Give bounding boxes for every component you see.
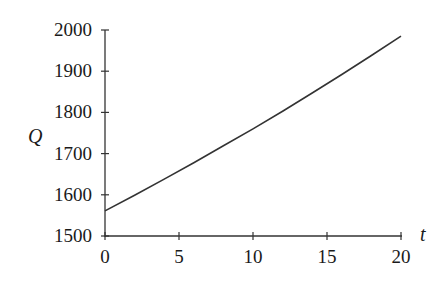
x-axis-label: t — [420, 223, 426, 245]
x-ticks: 05101520 — [100, 232, 410, 267]
y-tick-label: 1800 — [54, 101, 92, 122]
y-tick-label: 2000 — [54, 19, 92, 40]
x-tick-label: 0 — [100, 246, 110, 267]
y-tick-label: 1700 — [54, 143, 92, 164]
y-axis-label: Q — [28, 125, 43, 147]
y-tick-label: 1900 — [54, 60, 92, 81]
x-tick-label: 10 — [244, 246, 263, 267]
plot-area: 150016001700180019002000 05101520 Q t — [28, 19, 426, 267]
x-tick-label: 20 — [392, 246, 411, 267]
chart: 150016001700180019002000 05101520 Q t — [0, 0, 443, 284]
series-line — [105, 36, 401, 211]
y-tick-label: 1500 — [54, 225, 92, 246]
x-tick-label: 5 — [174, 246, 184, 267]
y-tick-label: 1600 — [54, 184, 92, 205]
x-tick-label: 15 — [318, 246, 337, 267]
y-ticks: 150016001700180019002000 — [54, 19, 109, 246]
